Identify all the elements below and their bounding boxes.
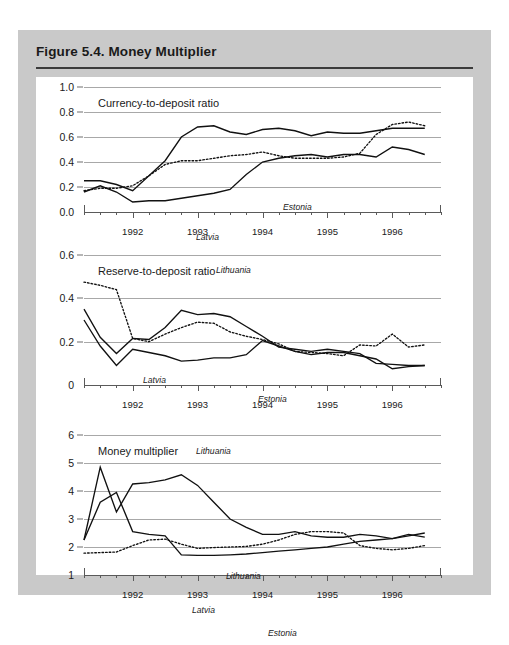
plot-area-money-multiplier: 123456Money multiplier199219931994199519… xyxy=(84,435,441,575)
y-axis-tick-label: 0.6 xyxy=(59,249,74,261)
x-axis-tick-label: 1996 xyxy=(382,589,403,600)
y-axis-tick xyxy=(77,187,83,188)
y-axis-tick-label: 1 xyxy=(68,569,74,581)
y-axis-tick-label: 2 xyxy=(68,541,74,553)
series-lines-money-multiplier xyxy=(84,435,441,576)
x-axis-tick-label: 1996 xyxy=(382,226,403,237)
y-axis-tick-label: 0.8 xyxy=(59,106,74,118)
y-axis-tick-label: 1.0 xyxy=(59,81,74,93)
y-axis-tick xyxy=(77,519,83,520)
y-axis-tick xyxy=(77,255,83,256)
y-axis-tick xyxy=(77,491,83,492)
y-axis-tick-label: 5 xyxy=(68,457,74,469)
series-label-estonia: Estonia xyxy=(268,628,297,638)
y-axis-tick xyxy=(77,341,83,342)
x-axis-minor-tick xyxy=(441,385,442,388)
series-label-estonia: Estonia xyxy=(283,202,312,212)
panel-currency-to-deposit: 0.00.20.40.60.81.0Currency-to-deposit ra… xyxy=(36,87,473,246)
series-label-latvia: Latvia xyxy=(143,375,166,385)
title-divider xyxy=(36,67,473,69)
panel-reserve-to-deposit: 00.20.40.6Reserve-to-deposit ratio199219… xyxy=(36,255,473,419)
series-line-estonia xyxy=(84,126,425,191)
y-axis-tick-label: 4 xyxy=(68,485,74,497)
y-axis-tick xyxy=(77,463,83,464)
y-axis-tick xyxy=(77,112,83,113)
y-axis-tick xyxy=(77,298,83,299)
figure-title: Figure 5.4. Money Multiplier xyxy=(36,44,217,59)
x-axis-tick-label: 1995 xyxy=(317,589,338,600)
panel-money-multiplier: 123456Money multiplier199219931994199519… xyxy=(36,435,473,609)
y-axis-tick-label: 0 xyxy=(68,379,74,391)
x-axis-tick-label: 1996 xyxy=(382,399,403,410)
series-label-estonia: Estonia xyxy=(258,394,287,404)
y-axis-tick-label: 0.4 xyxy=(59,292,74,304)
y-axis-tick xyxy=(77,435,83,436)
y-axis-tick-label: 0.2 xyxy=(59,181,74,193)
x-axis-tick-label: 1994 xyxy=(252,226,273,237)
y-axis-tick xyxy=(77,87,83,88)
series-lines-currency-to-deposit xyxy=(84,87,441,213)
y-axis-tick-label: 0.0 xyxy=(59,206,74,218)
x-axis-tick-label: 1995 xyxy=(317,399,338,410)
y-axis-tick xyxy=(77,137,83,138)
x-axis-tick-label: 1993 xyxy=(187,589,208,600)
series-line-lithuania xyxy=(84,147,425,202)
series-label-lithuania: Lithuania xyxy=(226,571,261,581)
x-axis-minor-tick xyxy=(441,575,442,578)
series-lines-reserve-to-deposit xyxy=(84,255,441,386)
series-label-latvia: Latvia xyxy=(196,232,219,242)
x-axis-tick-label: 1993 xyxy=(187,399,208,410)
series-line-latvia xyxy=(84,532,425,554)
series-line-lithuania xyxy=(84,467,425,540)
x-axis-tick-label: 1992 xyxy=(122,589,143,600)
series-label-lithuania: Lithuania xyxy=(216,265,251,275)
y-axis-tick-label: 3 xyxy=(68,513,74,525)
series-line-latvia xyxy=(84,282,425,356)
y-axis-tick-label: 6 xyxy=(68,429,74,441)
plot-area-currency-to-deposit: 0.00.20.40.60.81.0Currency-to-deposit ra… xyxy=(84,87,441,212)
y-axis-tick-label: 0.4 xyxy=(59,156,74,168)
y-axis-tick-label: 0.2 xyxy=(59,336,74,348)
x-axis-tick-label: 1995 xyxy=(317,226,338,237)
x-axis-tick-label: 1992 xyxy=(122,226,143,237)
y-axis-tick xyxy=(77,547,83,548)
x-axis-minor-tick xyxy=(441,212,442,215)
y-axis-tick xyxy=(77,162,83,163)
y-axis-tick-label: 0.6 xyxy=(59,131,74,143)
plot-area-reserve-to-deposit: 00.20.40.6Reserve-to-deposit ratio199219… xyxy=(84,255,441,385)
figure-frame: Figure 5.4. Money Multiplier 0.00.20.40.… xyxy=(18,30,491,595)
chart-card: 0.00.20.40.60.81.0Currency-to-deposit ra… xyxy=(36,77,473,575)
x-axis-tick-label: 1992 xyxy=(122,399,143,410)
series-label-latvia: Latvia xyxy=(192,605,215,615)
series-label-lithuania: Lithuania xyxy=(196,446,231,456)
x-axis-tick-label: 1994 xyxy=(252,589,273,600)
